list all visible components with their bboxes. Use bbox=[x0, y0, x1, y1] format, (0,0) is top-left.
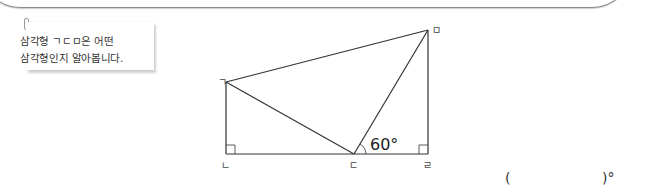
vertex-giyeok: ㄱ bbox=[218, 77, 227, 88]
answer-blank[interactable] bbox=[518, 168, 598, 188]
angle-arc bbox=[360, 144, 366, 154]
answer-open-paren: ( bbox=[505, 170, 510, 186]
answer-close-paren-degree: )° bbox=[602, 170, 614, 186]
vertex-nieun: ㄴ bbox=[221, 160, 230, 171]
vertex-rieul: ㄹ bbox=[423, 160, 432, 171]
right-angle-mark-nieun bbox=[226, 145, 235, 154]
vertex-mieum: ㅁ bbox=[432, 25, 441, 36]
right-angle-mark-rieul bbox=[419, 145, 428, 154]
angle-label: 60° bbox=[370, 135, 398, 154]
vertex-digeut: ㄷ bbox=[349, 160, 358, 171]
geometry-figure: ㄱ ㅁ ㄴ ㄷ ㄹ 60° bbox=[0, 0, 648, 195]
